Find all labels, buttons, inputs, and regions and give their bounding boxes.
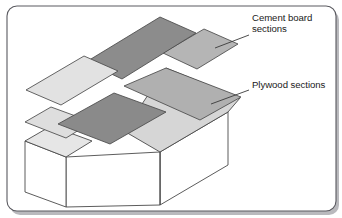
callout-label-plywood-line1: Plywood sections	[252, 79, 326, 90]
callout-label-cement-board-line2: sections	[252, 23, 287, 34]
callout-label-cement-board-line1: Cement board	[252, 12, 312, 23]
box-face-long-front	[66, 152, 160, 207]
diagram-svg: Cement board sections Plywood sections	[0, 0, 342, 218]
figure-container: Cement board sections Plywood sections	[0, 0, 342, 218]
